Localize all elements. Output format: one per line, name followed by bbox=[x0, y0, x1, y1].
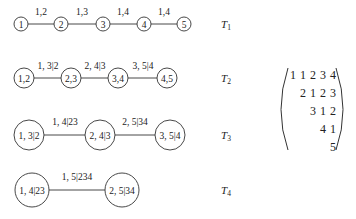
tree-t1: 1,2 1,3 1,4 1,4 1 2 3 4 5 T1 bbox=[14, 7, 231, 32]
edge-label: 1,4 bbox=[117, 7, 129, 17]
node-label: 3, 5|4 bbox=[160, 131, 181, 141]
node-label: 2, 4|3 bbox=[90, 131, 111, 141]
node-label: 2 bbox=[59, 20, 64, 30]
tree-label: T3 bbox=[221, 129, 231, 143]
vine-tree-diagram: 1,2 1,3 1,4 1,4 1 2 3 4 5 T1 1, 3|2 2, 4… bbox=[0, 0, 356, 219]
matrix-cell: 1 bbox=[318, 102, 328, 120]
tree-label: T2 bbox=[221, 72, 231, 86]
edge-label: 1,3 bbox=[76, 7, 88, 17]
node-label: 5 bbox=[182, 20, 187, 30]
edge-label: 3, 5|4 bbox=[133, 61, 154, 71]
tree-t2: 1, 3|2 2, 4|3 3, 5|4 1,2 2,3 3,4 4,5 T2 bbox=[14, 61, 231, 88]
matrix-cell: 1 bbox=[298, 66, 308, 84]
matrix-cell: 2 bbox=[298, 84, 308, 102]
node-label: 1,2 bbox=[18, 74, 30, 84]
node-label: 2, 5|34 bbox=[109, 186, 135, 196]
node-label: 4 bbox=[142, 20, 147, 30]
matrix-cell: 5 bbox=[328, 138, 338, 156]
edge-label: 1, 5|234 bbox=[62, 172, 93, 182]
edge-label: 2, 5|34 bbox=[122, 117, 148, 127]
matrix-cell: 4 bbox=[328, 66, 338, 84]
matrix-cell: 2 bbox=[318, 84, 328, 102]
tree-t4: 1, 5|234 1, 4|23 2, 5|34 T4 bbox=[15, 172, 231, 207]
node-label: 3,4 bbox=[112, 74, 124, 84]
edge-label: 1, 4|23 bbox=[52, 117, 78, 127]
edge-label: 1,4 bbox=[158, 7, 170, 17]
left-paren bbox=[281, 68, 288, 150]
tree-label: T1 bbox=[221, 18, 231, 32]
edge-label: 1,2 bbox=[35, 7, 47, 17]
matrix-cell: 2 bbox=[328, 102, 338, 120]
tree-t3: 1, 4|23 2, 5|34 1, 3|2 2, 4|3 3, 5|4 T3 bbox=[14, 117, 231, 150]
node-label: 3 bbox=[101, 20, 106, 30]
node-label: 1, 4|23 bbox=[19, 186, 45, 196]
edge-label: 1, 3|2 bbox=[38, 61, 59, 71]
matrix-cell: 4 bbox=[318, 120, 328, 138]
matrix-cell: 3 bbox=[318, 66, 328, 84]
tree-label: T4 bbox=[221, 184, 231, 198]
edge-label: 2, 4|3 bbox=[85, 61, 106, 71]
node-label: 4,5 bbox=[161, 74, 173, 84]
node-label: 2,3 bbox=[65, 74, 77, 84]
matrix-cell: 3 bbox=[308, 102, 318, 120]
matrix-cell: 3 bbox=[328, 84, 338, 102]
matrix-cell: 1 bbox=[308, 84, 318, 102]
node-label: 1 bbox=[19, 20, 24, 30]
node-label: 1, 3|2 bbox=[19, 131, 40, 141]
matrix-cell: 1 bbox=[328, 120, 338, 138]
matrix-cell: 2 bbox=[308, 66, 318, 84]
matrix-cell: 1 bbox=[288, 66, 298, 84]
